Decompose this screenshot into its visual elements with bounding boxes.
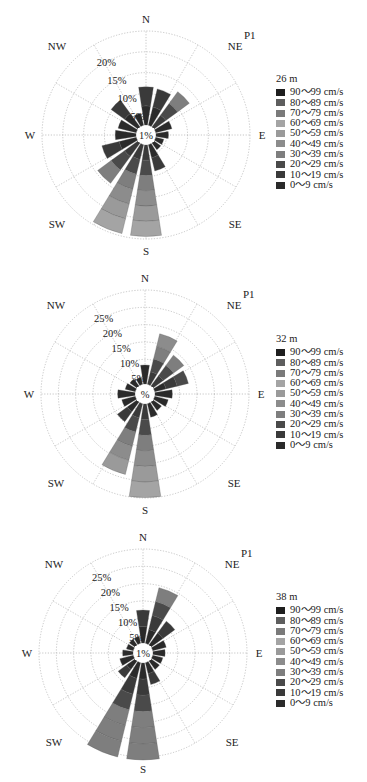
ring-label: 10% bbox=[118, 617, 138, 628]
legend-swatch bbox=[276, 411, 285, 418]
legend-swatch bbox=[276, 400, 285, 407]
legend-swatch bbox=[276, 607, 285, 614]
compass-label-s: S bbox=[143, 245, 149, 257]
rose-bar-s bbox=[127, 743, 160, 760]
station-label: P1 bbox=[243, 288, 255, 300]
rose-bar-s bbox=[129, 481, 161, 498]
ring-label: 5% bbox=[129, 632, 143, 643]
legend-swatch bbox=[276, 130, 285, 137]
rose-bar-s bbox=[141, 404, 149, 420]
center-label: 1% bbox=[136, 648, 150, 659]
legend-label: 0～9 cm/s bbox=[290, 180, 333, 190]
legend-item: 0～9 cm/s bbox=[276, 698, 343, 708]
legend-label: 0～9 cm/s bbox=[290, 440, 333, 450]
legend-swatch bbox=[276, 617, 285, 624]
legend-swatch bbox=[276, 421, 285, 428]
ring-label: 25% bbox=[94, 313, 114, 324]
compass-label-e: E bbox=[258, 388, 265, 400]
center-label: % bbox=[141, 389, 150, 400]
legend-swatch bbox=[276, 638, 285, 645]
rose-bar-s bbox=[139, 419, 152, 435]
legend-swatch bbox=[276, 669, 285, 676]
compass-label-w: W bbox=[25, 129, 36, 141]
compass-label-sw: SW bbox=[48, 477, 65, 489]
ring-label: 10% bbox=[120, 358, 140, 369]
rose-bar-w bbox=[123, 650, 134, 656]
legend-swatch bbox=[276, 182, 285, 189]
ring-label: 15% bbox=[107, 75, 127, 86]
legend-swatch bbox=[276, 700, 285, 707]
rose-bar-e bbox=[156, 132, 169, 139]
rose-bar-s bbox=[137, 679, 150, 695]
legend-title: 32 m bbox=[276, 334, 343, 344]
legend-item: 0～9 cm/s bbox=[276, 440, 343, 450]
rose-bar-s bbox=[140, 160, 152, 176]
legend-swatch bbox=[276, 349, 285, 356]
legend-swatch bbox=[276, 658, 285, 665]
rose-bar-s bbox=[132, 466, 159, 482]
legend-swatch bbox=[276, 689, 285, 696]
compass-label-n: N bbox=[141, 272, 149, 284]
compass-label-s: S bbox=[142, 504, 148, 516]
legend-swatch bbox=[276, 140, 285, 147]
compass-label-n: N bbox=[139, 531, 147, 543]
legend-32m: 32 m 90～99 cm/s80～89 cm/s70～79 cm/s60～69… bbox=[276, 334, 343, 450]
ring-label: 15% bbox=[109, 602, 129, 613]
legend-swatch bbox=[276, 628, 285, 635]
ring-label: 10% bbox=[118, 93, 138, 104]
rose-bar-s bbox=[142, 145, 150, 160]
rose-bar-s bbox=[134, 450, 156, 466]
rose-bar-sse bbox=[152, 155, 166, 171]
legend-swatch bbox=[276, 679, 285, 686]
windrose-panel-26m: 1%5%10%15%20%NNEESESSWWNWP1 26 m 90～99 c… bbox=[0, 0, 367, 260]
legend-swatch bbox=[276, 359, 285, 366]
compass-label-e: E bbox=[256, 647, 263, 659]
legend-swatch bbox=[276, 431, 285, 438]
rose-bar-s bbox=[139, 663, 147, 679]
legend-swatch bbox=[276, 442, 285, 449]
rose-bar-s bbox=[131, 220, 162, 236]
grid-spoke bbox=[154, 399, 235, 446]
rose-bar-s bbox=[132, 711, 155, 728]
ring-label: 5% bbox=[131, 373, 145, 384]
compass-label-w: W bbox=[22, 647, 33, 659]
compass-label-nw: NW bbox=[45, 558, 64, 570]
station-label: P1 bbox=[244, 29, 256, 41]
rose-bar-e bbox=[153, 650, 165, 657]
rose-bar-n bbox=[136, 610, 149, 627]
rose-bar-s bbox=[137, 175, 154, 191]
ring-label: 15% bbox=[111, 343, 131, 354]
compass-label-se: SE bbox=[226, 736, 239, 748]
rose-bar-s bbox=[136, 435, 153, 451]
legend-swatch bbox=[276, 380, 285, 387]
legend-swatch bbox=[276, 151, 285, 158]
center-label: 1% bbox=[139, 130, 153, 141]
compass-label-s: S bbox=[140, 763, 146, 775]
legend-item: 0～9 cm/s bbox=[276, 180, 343, 190]
rose-bar-n bbox=[139, 87, 154, 106]
rose-bar-sse bbox=[148, 671, 160, 684]
compass-label-w: W bbox=[24, 388, 35, 400]
compass-label-ne: NE bbox=[225, 558, 240, 570]
compass-label-se: SE bbox=[229, 218, 242, 230]
legend-label: 0～9 cm/s bbox=[290, 698, 333, 708]
legend-38m: 38 m 90～99 cm/s80～89 cm/s70～79 cm/s60～69… bbox=[276, 592, 343, 708]
station-label: P1 bbox=[241, 547, 253, 559]
rose-bar-s bbox=[134, 695, 152, 712]
grid-spoke bbox=[152, 658, 233, 705]
compass-label-se: SE bbox=[228, 477, 241, 489]
legend-title: 38 m bbox=[276, 592, 343, 602]
windrose-panel-38m: 1%5%10%15%20%25%NNEESESSWWNWP1 38 m 90～9… bbox=[0, 520, 367, 780]
rose-bar-s bbox=[129, 727, 157, 744]
legend-swatch bbox=[276, 120, 285, 127]
legend-title: 26 m bbox=[276, 74, 343, 84]
legend-swatch bbox=[276, 89, 285, 96]
compass-label-sw: SW bbox=[49, 218, 66, 230]
legend-swatch bbox=[276, 370, 285, 377]
compass-label-sw: SW bbox=[46, 736, 63, 748]
compass-label-nw: NW bbox=[48, 40, 67, 52]
compass-label-nw: NW bbox=[47, 299, 66, 311]
legend-swatch bbox=[276, 390, 285, 397]
ring-label: 20% bbox=[97, 57, 117, 68]
legend-swatch bbox=[276, 648, 285, 655]
